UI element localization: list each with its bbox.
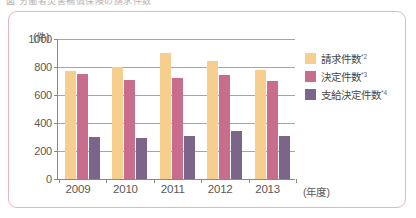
bar-2009-支給決定件数 (89, 137, 100, 179)
legend-label-支給決定件数: 支給決定件数*4 (321, 87, 387, 102)
legend-swatch-支給決定件数 (305, 89, 316, 100)
x-tick-label-2010: 2010 (102, 183, 148, 195)
bar-2013-支給決定件数 (279, 136, 290, 179)
legend-swatch-決定件数 (305, 71, 316, 82)
x-tick-mark-2013 (249, 179, 250, 183)
legend-footnote-支給決定件数: *4 (381, 88, 387, 95)
caption-text: 図 労働者災害補償保険の請求件数 (6, 0, 152, 7)
x-tick-label-2012: 2012 (197, 183, 243, 195)
caption-strip: 図 労働者災害補償保険の請求件数 (0, 0, 416, 9)
x-tick-mark-2010 (106, 179, 107, 183)
x-tick-label-2011: 2011 (150, 183, 196, 195)
x-axis-unit-label: (年度) (303, 184, 330, 199)
bar-2012-支給決定件数 (231, 131, 242, 179)
chart-frame: (件) 02004006008001000 200920102011201220… (8, 11, 406, 208)
x-tick-label-2009: 2009 (55, 183, 101, 195)
legend-swatch-請求件数 (305, 53, 316, 64)
legend-item-決定件数[interactable]: 決定件数*3 (305, 67, 405, 85)
bar-2011-請求件数 (160, 53, 171, 179)
y-tick-label-600: 600 (12, 90, 52, 101)
y-tick-label-1000: 1000 (12, 34, 52, 45)
bar-2011-支給決定件数 (184, 136, 195, 179)
bar-groups (58, 39, 295, 179)
legend-item-請求件数[interactable]: 請求件数*2 (305, 49, 405, 67)
y-axis-ticks: 02004006008001000 (11, 39, 52, 179)
x-tick-mark-2009 (59, 179, 60, 183)
x-tick-mark-2011 (154, 179, 155, 183)
bar-group-2012 (207, 39, 243, 179)
bar-2009-決定件数 (77, 74, 88, 179)
plot-area: 02004006008001000 (58, 39, 295, 179)
bar-2012-請求件数 (207, 61, 218, 179)
x-tick-mark-2012 (201, 179, 202, 183)
bar-2009-請求件数 (65, 71, 76, 179)
bar-2013-請求件数 (255, 70, 266, 179)
bar-2010-支給決定件数 (136, 138, 147, 179)
legend-label-請求件数: 請求件数*2 (321, 51, 367, 66)
legend-label-決定件数: 決定件数*3 (321, 69, 367, 84)
bar-group-2009 (65, 39, 101, 179)
x-tick-mark-end (296, 179, 297, 183)
y-tick-label-0: 0 (12, 174, 52, 185)
bar-2011-決定件数 (172, 78, 183, 179)
bar-2010-請求件数 (112, 67, 123, 179)
bar-group-2011 (160, 39, 196, 179)
bar-2013-決定件数 (267, 81, 278, 179)
legend-footnote-決定件数: *3 (361, 70, 367, 77)
x-tick-label-2013: 2013 (245, 183, 291, 195)
gridline-0 (58, 179, 295, 180)
bar-group-2013 (255, 39, 291, 179)
legend-footnote-請求件数: *2 (361, 52, 367, 59)
legend-item-支給決定件数[interactable]: 支給決定件数*4 (305, 85, 405, 103)
y-tick-label-800: 800 (12, 62, 52, 73)
bar-group-2010 (112, 39, 148, 179)
y-tick-label-400: 400 (12, 118, 52, 129)
legend: 請求件数*2決定件数*3支給決定件数*4 (305, 49, 405, 103)
y-tick-mark-0 (54, 179, 58, 180)
bar-2012-決定件数 (219, 75, 230, 179)
y-tick-label-200: 200 (12, 146, 52, 157)
bar-2010-決定件数 (124, 80, 135, 179)
